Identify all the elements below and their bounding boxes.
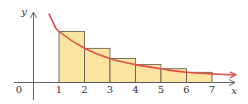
x-tick-1: 1 <box>56 84 62 95</box>
x-tick-labels: 1234567 <box>56 84 215 95</box>
riemann-sum-chart: 1234567 0 x y <box>0 0 248 104</box>
rectangle-1 <box>59 32 85 83</box>
x-tick-5: 5 <box>158 84 164 95</box>
x-tick-7: 7 <box>209 84 215 95</box>
x-tick-6: 6 <box>183 84 189 95</box>
y-axis-label: y <box>20 6 27 17</box>
x-tick-2: 2 <box>81 84 87 95</box>
y-axis <box>31 12 37 100</box>
x-axis-label: x <box>231 85 237 96</box>
origin-label: 0 <box>16 84 22 95</box>
rectangles <box>59 32 212 83</box>
x-tick-3: 3 <box>107 84 113 95</box>
x-tick-4: 4 <box>132 84 138 95</box>
